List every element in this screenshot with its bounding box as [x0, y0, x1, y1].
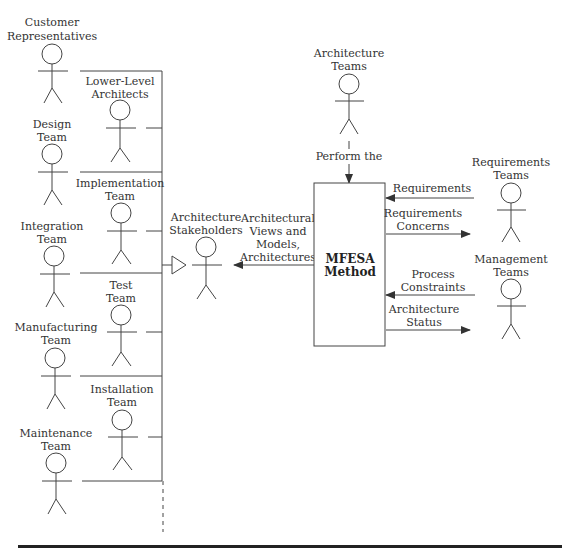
svg-text:Architecture: Architecture	[388, 303, 459, 316]
svg-text:Process: Process	[411, 268, 455, 281]
stick-figure-icon	[108, 410, 138, 470]
actor-design-team: Design Team	[33, 118, 72, 205]
actor-manufacturing-team: Manufacturing Team	[14, 321, 97, 409]
stick-figure-icon	[38, 44, 68, 103]
stick-figure-icon	[106, 100, 136, 162]
svg-text:Teams: Teams	[331, 60, 367, 73]
svg-text:Team: Team	[105, 190, 136, 203]
svg-text:Architecture: Architecture	[313, 47, 384, 60]
svg-text:Stakeholders: Stakeholders	[169, 224, 243, 237]
svg-text:Team: Team	[107, 396, 138, 409]
svg-text:Architectural: Architectural	[240, 212, 315, 225]
svg-text:Perform the: Perform the	[316, 150, 383, 163]
svg-text:Lower-Level: Lower-Level	[86, 75, 155, 88]
svg-text:Requirements: Requirements	[393, 182, 472, 195]
svg-text:Team: Team	[37, 233, 68, 246]
actor-architecture-teams: Architecture Teams Perform the	[313, 47, 384, 183]
svg-text:Status: Status	[406, 316, 442, 329]
actor-lower-level-architects: Lower-Level Architects	[86, 75, 155, 162]
svg-text:Team: Team	[106, 292, 137, 305]
mfesa-context-diagram: Customer Representatives Design Team Int…	[0, 0, 562, 554]
generalization-arrow-icon	[172, 256, 186, 274]
actor-implementation-team: Implementation Team	[76, 177, 165, 264]
svg-text:Teams: Teams	[493, 266, 529, 279]
stick-figure-icon	[335, 74, 364, 134]
actor-customer-representatives: Customer Representatives	[7, 16, 97, 103]
svg-text:Architecture: Architecture	[170, 211, 241, 224]
svg-text:Views and: Views and	[248, 225, 306, 238]
stick-figure-icon	[497, 279, 526, 339]
svg-text:Customer: Customer	[25, 16, 80, 29]
flow-process-constraints: Process Constraints	[386, 268, 475, 295]
mfesa-method-box: MFESA Method	[314, 183, 385, 346]
svg-text:Requirements: Requirements	[384, 207, 463, 220]
flow-architecture-status: Architecture Status	[386, 303, 470, 330]
svg-text:Constraints: Constraints	[401, 281, 466, 294]
actor-integration-team: Integration Team	[21, 220, 84, 307]
svg-text:Team: Team	[37, 131, 68, 144]
stick-figure-icon	[497, 183, 526, 242]
stick-figure-icon	[107, 203, 137, 264]
svg-text:Implementation: Implementation	[76, 177, 165, 190]
svg-text:Method: Method	[324, 265, 376, 279]
svg-text:MFESA: MFESA	[326, 252, 376, 266]
svg-text:Management: Management	[474, 253, 548, 266]
stick-figure-icon	[40, 246, 70, 307]
svg-text:Team: Team	[41, 334, 72, 347]
actor-requirements-teams: Requirements Teams	[472, 156, 551, 242]
stick-figure-icon	[192, 237, 222, 299]
actor-installation-team: Installation Team	[90, 383, 153, 470]
actor-management-teams: Management Teams	[474, 253, 548, 339]
svg-text:Concerns: Concerns	[397, 220, 450, 233]
svg-text:Representatives: Representatives	[7, 30, 97, 43]
flow-architectural-views: Architectural Views and Models, Architec…	[234, 212, 316, 265]
flow-requirements: Requirements	[386, 182, 474, 198]
stick-figure-icon	[107, 305, 137, 366]
svg-text:Integration: Integration	[21, 220, 84, 233]
stick-figure-icon	[42, 453, 72, 514]
svg-text:Architects: Architects	[90, 88, 148, 101]
svg-text:Installation: Installation	[90, 383, 153, 396]
flow-requirements-concerns: Requirements Concerns	[384, 207, 470, 234]
svg-text:Models,: Models,	[256, 238, 300, 251]
svg-text:Requirements: Requirements	[472, 156, 551, 169]
actor-architecture-stakeholders: Architecture Stakeholders	[169, 211, 243, 299]
svg-text:Teams: Teams	[493, 169, 529, 182]
svg-text:Test: Test	[109, 279, 133, 292]
svg-text:Design: Design	[33, 118, 72, 131]
svg-text:Maintenance: Maintenance	[20, 427, 93, 440]
svg-text:Manufacturing: Manufacturing	[14, 321, 97, 334]
actor-maintenance-team: Maintenance Team	[20, 427, 93, 514]
svg-text:Team: Team	[41, 440, 72, 453]
svg-text:Architectures: Architectures	[239, 251, 316, 264]
actor-test-team: Test Team	[106, 279, 137, 366]
stick-figure-icon	[41, 348, 71, 409]
bottom-rule	[18, 545, 562, 548]
stick-figure-icon	[38, 144, 68, 205]
